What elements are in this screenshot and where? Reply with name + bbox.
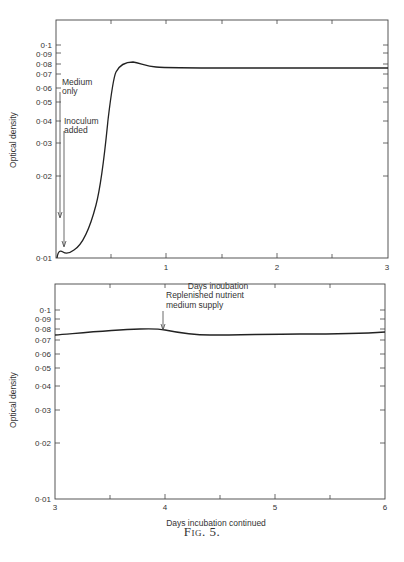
bottom-chart-annotations: Replenished nutrient medium supply	[166, 290, 245, 310]
bottom-plot-frame	[55, 284, 385, 499]
x-tick-label: 3	[53, 503, 58, 512]
y-tick-label: 0·07	[35, 336, 52, 345]
top-chart: 0·1 0·09 0·08 0·07 0·06 0·05 0·04 0·03 0…	[8, 20, 390, 291]
annotation-replenished-line2: medium supply	[166, 300, 224, 310]
top-chart-x-tick-labels: 1 2 3	[164, 263, 390, 272]
y-tick-label: 0·02	[36, 172, 53, 181]
bottom-chart: 0·1 0·09 0·08 0·07 0·06 0·05 0·04 0·03 0…	[8, 284, 388, 528]
figure: 0·1 0·09 0·08 0·07 0·06 0·05 0·04 0·03 0…	[0, 0, 404, 562]
y-tick-label: 0·09	[36, 50, 53, 59]
y-tick-label: 0·01	[36, 254, 53, 263]
bottom-chart-x-ticks	[110, 494, 330, 499]
y-tick-label: 0·06	[35, 350, 52, 359]
x-tick-label: 1	[164, 263, 169, 272]
y-tick-label: 0·07	[36, 70, 53, 79]
annotation-inoculum-line2: added	[64, 125, 88, 135]
y-tick-label: 0·06	[36, 84, 53, 93]
x-tick-label: 2	[275, 263, 280, 272]
y-tick-label: 0·01	[35, 495, 52, 504]
x-tick-label: 6	[383, 503, 388, 512]
top-chart-x-ticks	[111, 253, 332, 258]
bottom-chart-y-ticks	[55, 310, 385, 443]
top-chart-y-axis-title: Optical density	[8, 111, 18, 167]
bottom-chart-y-tick-labels: 0·1 0·09 0·08 0·07 0·06 0·05 0·04 0·03 0…	[35, 306, 52, 504]
top-chart-top-ticks	[111, 20, 332, 24]
top-chart-growth-curve	[57, 62, 388, 258]
y-tick-label: 0·1	[39, 306, 51, 315]
y-tick-label: 0·04	[36, 117, 53, 126]
bottom-chart-top-ticks	[110, 284, 330, 288]
y-tick-label: 0·03	[36, 139, 53, 148]
y-tick-label: 0·05	[36, 98, 53, 107]
figure-caption: Fig. 5.	[0, 524, 404, 540]
bottom-chart-y-axis-title: Optical density	[8, 371, 18, 427]
top-chart-annotations: Medium only Inoculum added	[62, 77, 99, 135]
top-chart-y-tick-labels: 0·1 0·09 0·08 0·07 0·06 0·05 0·04 0·03 0…	[36, 41, 53, 263]
y-tick-label: 0·04	[35, 382, 52, 391]
y-tick-label: 0·03	[35, 406, 52, 415]
y-tick-label: 0·09	[35, 315, 52, 324]
x-tick-label: 4	[163, 503, 168, 512]
x-tick-label: 3	[385, 263, 390, 272]
bottom-chart-od-curve	[55, 329, 385, 335]
annotation-medium-only-line2: only	[62, 86, 78, 96]
annotation-replenished-line1: Replenished nutrient	[166, 290, 245, 300]
top-chart-y-ticks	[56, 45, 388, 176]
y-tick-label: 0·1	[40, 41, 52, 50]
y-tick-label: 0·05	[35, 364, 52, 373]
y-tick-label: 0·08	[35, 325, 52, 334]
y-tick-label: 0·08	[36, 60, 53, 69]
x-tick-label: 5	[273, 503, 278, 512]
bottom-chart-annotation-arrow	[161, 311, 165, 330]
y-tick-label: 0·02	[35, 439, 52, 448]
bottom-chart-x-tick-labels: 3 4 5 6	[53, 503, 388, 512]
